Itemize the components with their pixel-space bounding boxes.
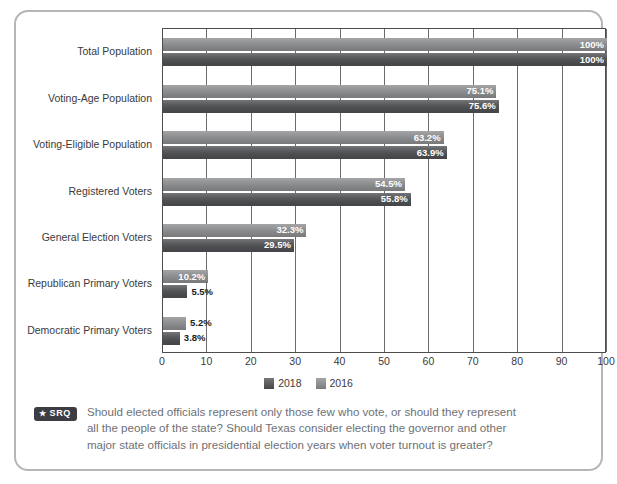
bar-2016-republican-primary-voters: 10.2% bbox=[163, 270, 208, 283]
bar-value-label: 75.6% bbox=[469, 101, 496, 111]
x-tick-label: 10 bbox=[201, 356, 213, 367]
gridline bbox=[562, 29, 563, 352]
bar-2018-registered-voters: 55.8% bbox=[163, 193, 411, 206]
x-tick-label: 90 bbox=[556, 356, 568, 367]
bar-value-label: 75.1% bbox=[467, 86, 494, 96]
legend-label: 2018 bbox=[278, 378, 301, 389]
gridline bbox=[473, 29, 474, 352]
srq-badge: ★ SRQ bbox=[34, 407, 77, 421]
bar-2018-voting-eligible-population: 63.9% bbox=[163, 146, 447, 159]
bar-2016-democratic-primary-voters: 5.2% bbox=[163, 317, 186, 330]
category-label: General Election Voters bbox=[42, 232, 152, 243]
x-tick-label: 0 bbox=[159, 356, 165, 367]
star-icon: ★ bbox=[39, 410, 47, 418]
x-tick-label: 60 bbox=[423, 356, 435, 367]
legend-item-2018[interactable]: 2018 bbox=[264, 378, 301, 389]
bar-2018-total-population: 100% bbox=[163, 53, 607, 66]
x-tick-label: 40 bbox=[334, 356, 346, 367]
category-label: Voting-Age Population bbox=[48, 92, 152, 103]
bar-2018-voting-age-population: 75.6% bbox=[163, 100, 499, 113]
bar-value-label: 100% bbox=[580, 55, 604, 65]
srq-badge-label: SRQ bbox=[50, 409, 71, 418]
gridline bbox=[384, 29, 385, 352]
bar-2016-general-election-voters: 32.3% bbox=[163, 224, 306, 237]
bar-2018-democratic-primary-voters: 3.8% bbox=[163, 332, 180, 345]
srq-question-text: Should elected officials represent only … bbox=[87, 404, 517, 453]
bar-2018-republican-primary-voters: 5.5% bbox=[163, 285, 187, 298]
gridline bbox=[295, 29, 296, 352]
legend-item-2016[interactable]: 2016 bbox=[316, 378, 353, 389]
bar-2016-voting-eligible-population: 63.2% bbox=[163, 131, 444, 144]
gridline bbox=[428, 29, 429, 352]
bar-value-label: 32.3% bbox=[276, 226, 303, 236]
x-tick-label: 20 bbox=[245, 356, 257, 367]
x-tick-label: 100 bbox=[597, 356, 615, 367]
bar-chart-plot-area: 100%100%75.1%75.6%63.2%63.9%54.5%55.8%32… bbox=[162, 28, 606, 353]
legend-label: 2016 bbox=[330, 378, 353, 389]
gridline bbox=[206, 29, 207, 352]
category-label: Total Population bbox=[77, 46, 152, 57]
bar-value-label: 29.5% bbox=[264, 241, 291, 251]
bar-value-label: 100% bbox=[580, 40, 604, 50]
category-label: Voting-Eligible Population bbox=[33, 139, 152, 150]
legend-swatch-icon bbox=[264, 378, 274, 389]
x-tick-label: 30 bbox=[289, 356, 301, 367]
x-tick-label: 80 bbox=[511, 356, 523, 367]
chart-card: Total PopulationVoting-Age PopulationVot… bbox=[14, 10, 603, 471]
bar-value-label: 63.9% bbox=[417, 148, 444, 158]
bar-2016-voting-age-population: 75.1% bbox=[163, 85, 496, 98]
chart-legend: 20182016 bbox=[16, 378, 601, 389]
category-axis-labels: Total PopulationVoting-Age PopulationVot… bbox=[16, 28, 158, 353]
x-tick-label: 70 bbox=[467, 356, 479, 367]
bar-value-label: 5.5% bbox=[191, 287, 213, 297]
bar-2016-total-population: 100% bbox=[163, 38, 607, 51]
srq-footer: ★ SRQ Should elected officials represent… bbox=[34, 404, 587, 453]
bar-value-label: 55.8% bbox=[381, 194, 408, 204]
category-label: Republican Primary Voters bbox=[28, 278, 152, 289]
bar-2018-general-election-voters: 29.5% bbox=[163, 239, 294, 252]
bar-value-label: 5.2% bbox=[190, 319, 212, 329]
gridline bbox=[340, 29, 341, 352]
gridline bbox=[606, 29, 607, 352]
bar-value-label: 3.8% bbox=[184, 334, 206, 344]
gridline bbox=[251, 29, 252, 352]
bar-2016-registered-voters: 54.5% bbox=[163, 178, 405, 191]
bar-value-label: 63.2% bbox=[414, 133, 441, 143]
bar-value-label: 10.2% bbox=[178, 272, 205, 282]
category-label: Democratic Primary Voters bbox=[27, 325, 152, 336]
legend-swatch-icon bbox=[316, 378, 326, 389]
bar-value-label: 54.5% bbox=[375, 179, 402, 189]
value-axis-tick-labels: 0102030405060708090100 bbox=[162, 356, 606, 372]
category-label: Registered Voters bbox=[69, 185, 152, 196]
x-tick-label: 50 bbox=[378, 356, 390, 367]
gridline bbox=[517, 29, 518, 352]
